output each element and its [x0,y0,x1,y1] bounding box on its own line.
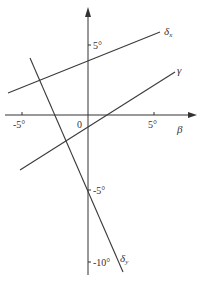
y-axis-arrow-icon [85,7,91,17]
label-delta-y: δy [120,252,129,266]
y-tick-label-neg5: -5° [93,185,105,196]
line-delta-y [30,58,123,272]
x-axis-label: β [176,123,183,135]
curves [8,32,175,272]
y-tick-label-pos5: 5° [93,40,102,51]
x-tick-label-neg5: -5° [13,119,25,130]
y-tick-label-neg10: -10° [93,257,110,268]
label-delta-x: δx [164,25,173,39]
x-tick-label-pos5: 5° [148,119,157,130]
line-delta-x [8,32,160,93]
diagram: -5° 0 5° β 5° -5° -10° δx γ δy [0,0,202,288]
axes [5,12,192,275]
x-axis-arrow-icon [188,112,197,118]
label-gamma: γ [177,64,182,76]
origin-label: 0 [77,119,82,130]
